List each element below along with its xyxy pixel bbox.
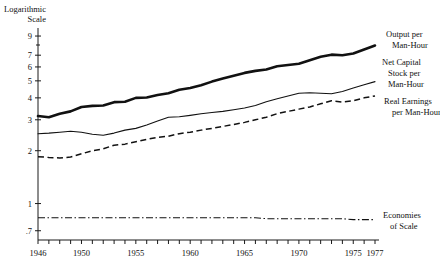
y-axis-tick-label: 7 <box>28 50 32 60</box>
x-axis-tick-label: 1960 <box>182 248 199 258</box>
x-axis-tick-label: 1975 <box>345 248 362 258</box>
legend-label-output-per-man-hour-line2: Man-Hour <box>392 40 428 50</box>
y-axis-tick-label: 4 <box>28 93 33 103</box>
legend-label-economies-of-scale-line1: Economies <box>383 210 421 220</box>
legend-label-real-earnings-line2: per Man-Hour <box>392 107 440 117</box>
y-axis-tick-label: .7 <box>26 226 32 236</box>
x-axis-tick-label: 1965 <box>236 248 253 258</box>
legend-label-net-capital-stock-line1: Net Capital <box>382 57 422 67</box>
logarithmic-scale-line-chart: Logarithmic Scale .712345679 19461950195… <box>0 0 440 266</box>
y-axis-tick-label: 6 <box>28 62 32 72</box>
legend-label-net-capital-stock-line2: Stock per <box>388 68 421 78</box>
legend-label-net-capital-stock-line3: Man-Hour <box>388 79 424 89</box>
x-axis-tick-label: 1950 <box>73 248 90 258</box>
x-axis-tick-labels: 19461950195519601965197019751977 <box>30 248 384 258</box>
y-axis-tick-label: 2 <box>28 146 32 156</box>
x-axis-tick-label: 1970 <box>290 248 307 258</box>
y-axis-title-line1: Logarithmic <box>4 4 46 14</box>
legend-label-economies-of-scale-line2: of Scale <box>390 221 418 231</box>
y-axis-tick-label: 1 <box>28 199 32 209</box>
series-line-economies-of-scale <box>38 218 375 220</box>
legend-label-real-earnings-line1: Real Earnings <box>384 96 432 106</box>
x-axis-tick-label: 1946 <box>30 248 47 258</box>
x-axis-tick-label: 1977 <box>367 248 384 258</box>
y-axis-tick-label: 9 <box>28 31 32 41</box>
x-axis-tick-label: 1955 <box>127 248 144 258</box>
chart-plot-area: Logarithmic Scale .712345679 19461950195… <box>0 0 440 266</box>
legend-label-output-per-man-hour-line1: Output per <box>386 29 423 39</box>
series-line-output-per-man-hour <box>38 45 375 117</box>
y-axis-tick-label: 5 <box>28 76 32 86</box>
y-axis-tick-labels: .712345679 <box>26 31 33 236</box>
series-line-net-capital-stock-per-man-hour <box>38 82 375 136</box>
y-axis-title-line2: Scale <box>28 14 47 24</box>
y-axis-tick-label: 3 <box>28 115 32 125</box>
x-axis-ticks <box>38 240 375 244</box>
